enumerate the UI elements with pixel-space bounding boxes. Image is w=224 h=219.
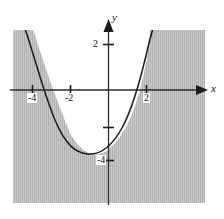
y-tick-label-minus4: -4 — [96, 155, 106, 165]
y-axis-label: y — [112, 12, 117, 23]
y-tick-label-2: 2 — [92, 39, 99, 49]
x-tick-label-minus2: -2 — [64, 93, 74, 103]
x-tick-label-minus4: -4 — [27, 93, 37, 103]
x-tick-label-2: 2 — [143, 93, 150, 103]
parabola-plot — [0, 0, 224, 219]
graph-figure: x y -4 -2 2 2 -4 — [0, 0, 224, 219]
x-axis-label: x — [211, 83, 216, 94]
